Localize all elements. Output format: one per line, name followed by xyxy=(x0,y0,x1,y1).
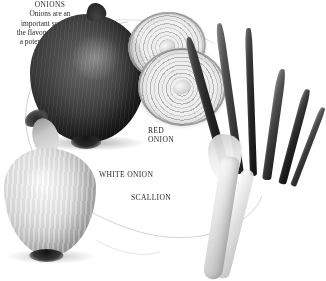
white-onion-ribs xyxy=(4,148,96,256)
white-onion-root xyxy=(29,249,63,262)
caption-title: ONIONS xyxy=(0,0,100,9)
scallion-blade xyxy=(245,28,257,176)
scallion-specimen xyxy=(196,6,326,274)
red-onion-root xyxy=(71,135,101,149)
label-scallion: SCALLION xyxy=(131,194,171,203)
label-white-onion: WHITE ONION xyxy=(99,171,153,180)
white-onion-specimen xyxy=(4,148,96,256)
white-onion-bulb xyxy=(4,148,96,256)
label-red-onion-line2: ONION xyxy=(148,136,174,145)
label-red-onion: RED ONION xyxy=(148,127,174,144)
onion-slice-core xyxy=(171,78,193,96)
